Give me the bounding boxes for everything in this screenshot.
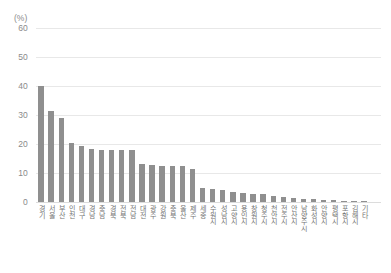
bar-slot <box>117 28 127 202</box>
x-axis-label-slot: 광주 <box>147 205 157 218</box>
bar-slot <box>349 28 359 202</box>
plot-area <box>36 28 381 202</box>
bar-slot <box>187 28 197 202</box>
bar <box>331 200 336 202</box>
bar <box>341 201 346 202</box>
bar-slot <box>268 28 278 202</box>
x-axis-label-slot: 강원 <box>157 205 167 218</box>
x-axis-tick-label: 제주 <box>189 205 197 218</box>
bar <box>281 197 286 203</box>
x-axis-label-slot: 인천 <box>66 205 76 218</box>
x-axis-label-slot: 서울 <box>46 205 56 218</box>
bar <box>361 201 366 202</box>
x-axis-label-slot: 경남 <box>86 205 96 218</box>
x-axis-tick-label: 안산시 <box>290 205 298 225</box>
bar <box>220 190 225 202</box>
x-axis-tick-label: 안양시 <box>320 205 328 225</box>
bar-slot <box>127 28 137 202</box>
x-axis-label-slot: 화성시 <box>309 205 319 225</box>
y-axis-tick-label: 10 <box>18 168 28 178</box>
bar <box>119 150 124 202</box>
bar <box>301 199 306 202</box>
x-axis-tick-label: 세종 <box>199 205 207 218</box>
x-axis-label-slot: 세종 <box>198 205 208 218</box>
x-axis-tick-label: 전북 <box>118 205 126 218</box>
bar <box>38 86 43 202</box>
x-axis-tick-label: 성남시 <box>219 205 227 225</box>
x-axis-label-slot: 경북 <box>107 205 117 218</box>
bar-series <box>36 28 381 202</box>
x-axis-label-slot: 남양주시 <box>298 205 308 232</box>
y-axis-tick-label: 30 <box>18 110 28 120</box>
x-axis-label-slot: 수원시 <box>208 205 218 225</box>
bar <box>79 146 84 202</box>
x-axis-tick-label: 전남 <box>128 205 136 218</box>
bar-slot <box>238 28 248 202</box>
bar-slot <box>228 28 238 202</box>
bar <box>99 150 104 202</box>
x-axis-label-slot: 포항시 <box>339 205 349 225</box>
bar <box>190 169 195 202</box>
y-axis-tick-label: 50 <box>18 52 28 62</box>
bar <box>210 189 215 202</box>
x-axis-label-slot: 용인시 <box>238 205 248 225</box>
x-axis-label-slot: 평택시 <box>329 205 339 225</box>
x-axis-label-slot: 안산시 <box>288 205 298 225</box>
x-axis-tick-label: 김해시 <box>350 205 358 225</box>
x-axis-label-slot: 울산 <box>177 205 187 218</box>
x-axis-tick-label: 포항시 <box>340 205 348 225</box>
bar <box>69 143 74 202</box>
bar-slot <box>36 28 46 202</box>
x-axis-tick-label: 평택시 <box>330 205 338 225</box>
bar-slot <box>86 28 96 202</box>
gridline <box>36 202 381 203</box>
x-axis-tick-label: 천안시 <box>269 205 277 225</box>
x-axis-label-slot: 기타 <box>359 205 369 218</box>
x-axis-tick-label: 서울 <box>47 205 55 218</box>
bar-slot <box>97 28 107 202</box>
x-axis-tick-label: 대전 <box>138 205 146 218</box>
x-axis-tick-label: 충남 <box>98 205 106 218</box>
x-axis-tick-label: 용인시 <box>239 205 247 225</box>
x-axis-tick-label: 인천 <box>68 205 76 218</box>
x-axis-label-slot: 성남시 <box>218 205 228 225</box>
x-axis-tick-label: 경기 <box>37 205 45 218</box>
bar-slot <box>46 28 56 202</box>
bar <box>89 149 94 202</box>
bar-slot <box>76 28 86 202</box>
bar <box>240 193 245 202</box>
x-axis-tick-label: 부산 <box>57 205 65 218</box>
y-axis-tick-labels: 6050403020100 <box>0 28 32 202</box>
y-axis-tick-label: 60 <box>18 23 28 33</box>
bar <box>170 166 175 202</box>
x-axis-tick-label: 충북 <box>168 205 176 218</box>
bar-slot <box>198 28 208 202</box>
x-axis-label-slot: 부산 <box>56 205 66 218</box>
x-axis-tick-label: 창원시 <box>249 205 257 225</box>
x-axis-label-slot: 제주 <box>187 205 197 218</box>
bar <box>271 196 276 202</box>
bar-slot <box>137 28 147 202</box>
x-axis-tick-label: 청주시 <box>259 205 267 225</box>
bar-slot <box>107 28 117 202</box>
bar <box>351 201 356 202</box>
x-axis-tick-label: 기타 <box>360 205 368 218</box>
bar <box>260 194 265 202</box>
bar <box>311 199 316 202</box>
x-axis-label-slot: 천안시 <box>268 205 278 225</box>
bar-slot <box>339 28 349 202</box>
x-axis-label-slot: 청주시 <box>258 205 268 225</box>
bar-slot <box>248 28 258 202</box>
x-axis-label-slot: 김해시 <box>349 205 359 225</box>
bar <box>180 166 185 202</box>
x-axis-label-slot: 전남 <box>127 205 137 218</box>
x-axis-tick-label: 강원 <box>158 205 166 218</box>
bar <box>230 192 235 202</box>
bar <box>109 150 114 202</box>
bar-slot <box>278 28 288 202</box>
bar-slot <box>157 28 167 202</box>
bar <box>321 200 326 202</box>
bar <box>149 165 154 202</box>
y-axis-tick-label: 0 <box>23 197 28 207</box>
x-axis-label-slot: 창원시 <box>248 205 258 225</box>
